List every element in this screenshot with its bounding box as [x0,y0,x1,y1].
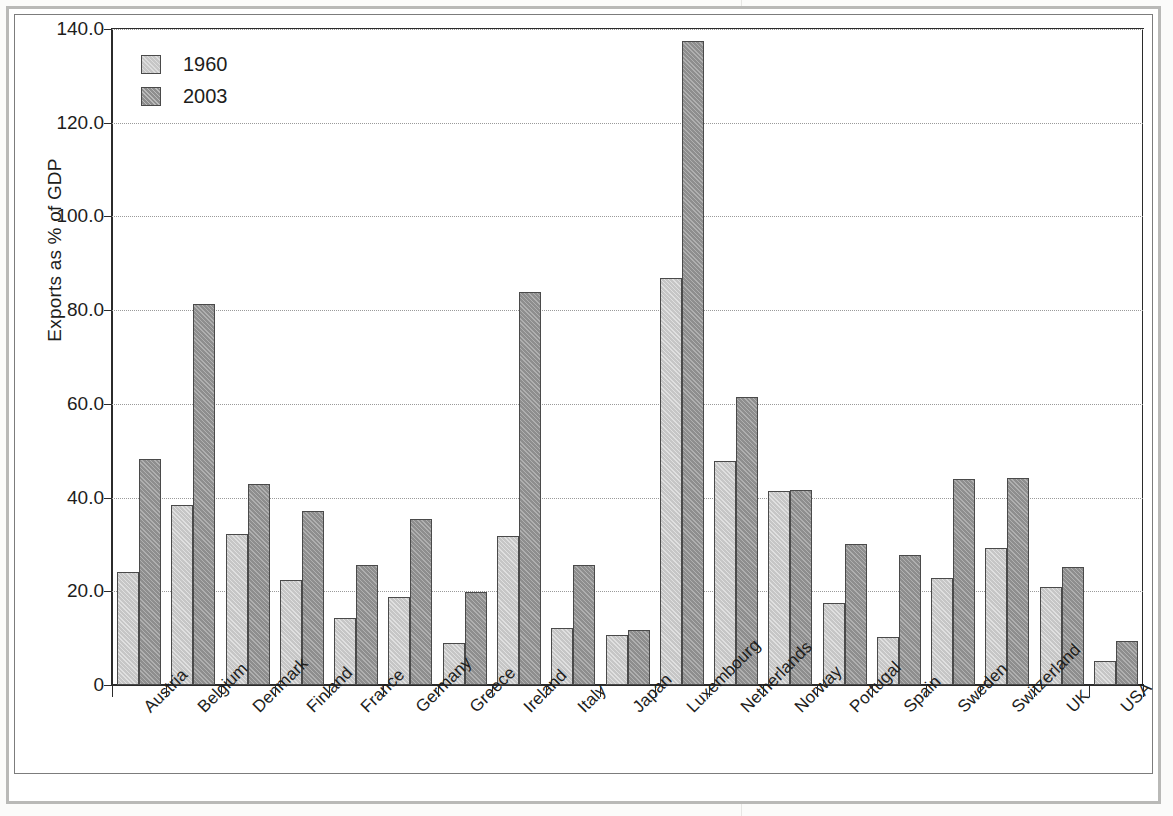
x-axis-tick-mark [1089,686,1090,697]
y-axis-tick-label: 60.0 [8,393,104,415]
bar-ireland-1960 [497,536,519,685]
bar-france-2003 [356,565,378,685]
x-axis-tick-mark [112,686,113,697]
bar-spain-2003 [899,555,921,685]
bar-germany-2003 [410,519,432,685]
bar-austria-2003 [139,459,161,685]
x-axis-tick-mark [655,686,656,697]
y-axis-tick-label: 0 [8,674,104,696]
plot-area [112,29,1143,685]
gridline [112,216,1143,217]
x-axis-tick-mark [383,686,384,697]
y-axis-tick-labels: 020.040.060.080.0100.0120.0140.0 [0,0,104,816]
bar-sweden-2003 [953,479,975,685]
legend-label: 2003 [183,85,228,108]
y-axis-tick-label: 100.0 [8,205,104,227]
bar-luxembourg-1960 [660,278,682,685]
bar-belgium-1960 [171,505,193,685]
y-axis-tick-label: 40.0 [8,487,104,509]
bar-belgium-2003 [193,304,215,685]
bar-portugal-2003 [845,544,867,686]
x-axis-tick-mark [709,686,710,697]
x-axis-tick-mark [546,686,547,697]
x-axis-tick-mark [872,686,873,697]
bar-denmark-2003 [248,484,270,685]
y-axis-tick-label: 20.0 [8,580,104,602]
x-axis-tick-mark [926,686,927,697]
legend-label: 1960 [183,53,228,76]
x-axis-tick-mark [438,686,439,697]
page-root: Exports as % of GDP 020.040.060.080.0100… [0,0,1173,816]
bar-usa-1960 [1094,661,1116,685]
bar-austria-1960 [117,572,139,685]
x-axis-tick-mark [600,686,601,697]
legend-swatch-icon [141,55,161,74]
y-axis-tick-label: 140.0 [8,18,104,40]
bar-japan-1960 [606,635,628,685]
legend-item-2003: 2003 [141,80,228,112]
legend-item-1960: 1960 [141,48,228,80]
x-axis-tick-mark [275,686,276,697]
gridline [112,404,1143,405]
bar-luxembourg-2003 [682,41,704,685]
x-axis-tick-mark [492,686,493,697]
bar-finland-2003 [302,511,324,685]
bar-switzerland-2003 [1007,478,1029,685]
bar-sweden-1960 [931,578,953,685]
x-axis-tick-mark [1143,686,1144,697]
gridline [112,310,1143,311]
y-axis-tick-label: 120.0 [8,112,104,134]
y-axis-tick-label: 80.0 [8,299,104,321]
legend-swatch-icon [141,87,161,106]
x-axis-tick-mark [329,686,330,697]
x-axis-tick-mark [817,686,818,697]
x-axis-tick-mark [980,686,981,697]
x-axis-tick-mark [221,686,222,697]
bar-japan-2003 [628,630,650,685]
x-axis-tick-mark [1034,686,1035,697]
x-axis-tick-mark [763,686,764,697]
x-axis-tick-mark [166,686,167,697]
bar-italy-2003 [573,565,595,685]
bar-ireland-2003 [519,292,541,685]
gridline [112,123,1143,124]
chart-legend: 19602003 [141,48,228,112]
gridline [112,29,1143,30]
bar-usa-2003 [1116,641,1138,685]
